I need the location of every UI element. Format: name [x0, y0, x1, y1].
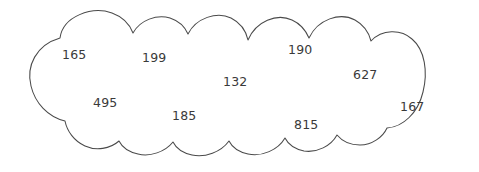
number-label-165: 165 — [62, 49, 86, 62]
number-label-132: 132 — [223, 76, 247, 89]
number-label-190: 190 — [288, 44, 312, 57]
cloud-diagram-canvas: 165 199 190 132 627 495 185 815 167 — [0, 0, 479, 172]
number-label-199: 199 — [142, 52, 166, 65]
number-label-627: 627 — [353, 69, 377, 82]
number-label-167: 167 — [400, 101, 424, 114]
number-label-815: 815 — [294, 119, 318, 132]
number-label-185: 185 — [172, 110, 196, 123]
number-label-495: 495 — [93, 97, 117, 110]
